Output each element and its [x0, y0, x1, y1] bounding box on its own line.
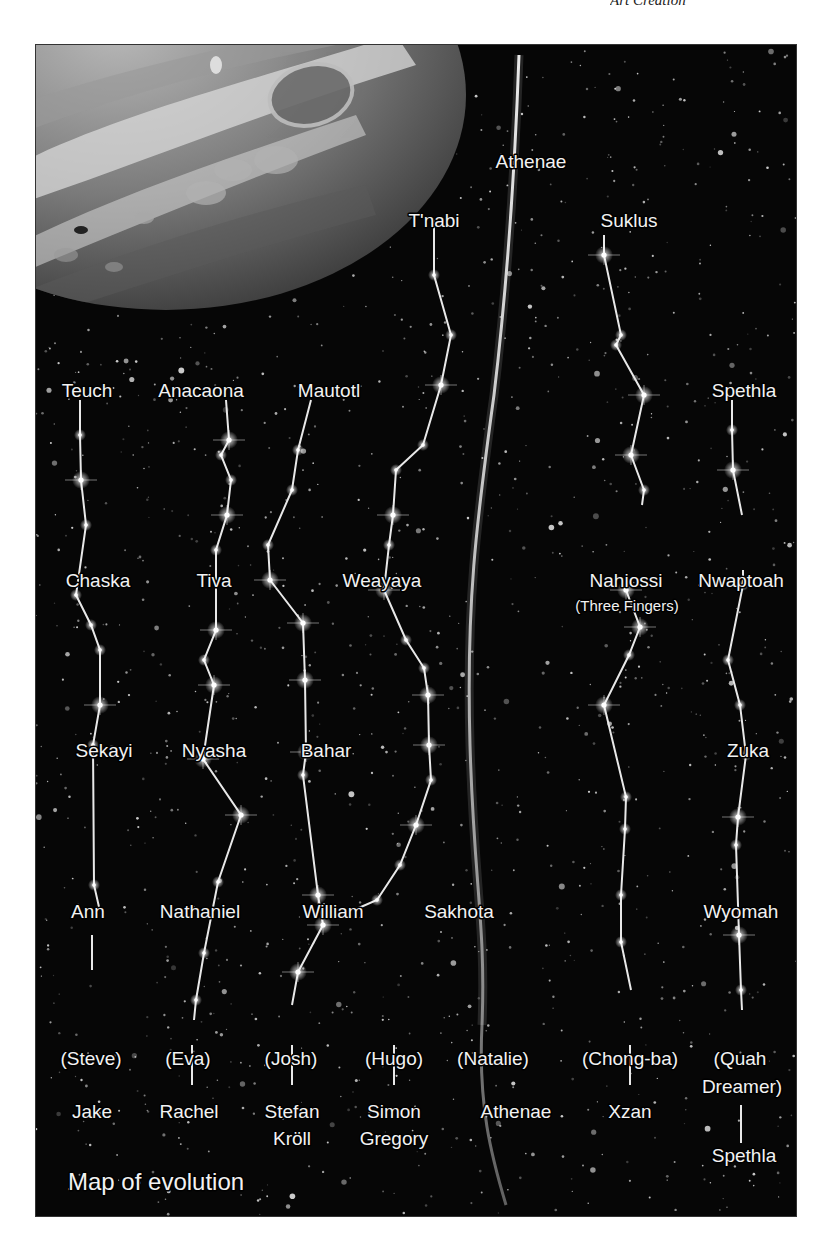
- label-kroll: Kröll: [273, 1128, 311, 1149]
- label-dreamer: Dreamer): [702, 1076, 782, 1097]
- label-mautotl: Mautotl: [298, 380, 360, 401]
- label-xzan: Xzan: [608, 1101, 651, 1122]
- label-nahiossi: Nahiossi: [590, 570, 663, 591]
- page-header-title: Art Creation: [610, 0, 686, 8]
- jupiter-planet-image: [36, 45, 466, 325]
- label-josh: (Josh): [265, 1048, 318, 1069]
- star-chains: [76, 220, 746, 1143]
- label-anacaona: Anacaona: [158, 380, 244, 401]
- label-athenae-bottom: Athenae: [481, 1101, 552, 1122]
- label-nwaptoah: Nwaptoah: [698, 570, 784, 591]
- label-chong-ba: (Chong-ba): [582, 1048, 678, 1069]
- label-athenae-top: Athenae: [496, 151, 567, 172]
- label-stefan: Stefan: [265, 1101, 320, 1122]
- label-wyomah: Wyomah: [704, 901, 779, 922]
- label-gregory: Gregory: [360, 1128, 429, 1149]
- label-nathaniel: Nathaniel: [160, 901, 240, 922]
- label-tnabi: T'nabi: [408, 210, 459, 231]
- page-running-header: Art Creation: [610, 0, 831, 10]
- star-map-canvas: Athenae (Natalie) Athenae Teuch Chaska S…: [36, 45, 796, 1216]
- label-spethla-top: Spethla: [712, 380, 777, 401]
- evolution-map-figure: Athenae (Natalie) Athenae Teuch Chaska S…: [36, 45, 796, 1216]
- label-steve: (Steve): [60, 1048, 121, 1069]
- label-william: William: [302, 901, 363, 922]
- label-zuka: Zuka: [727, 740, 770, 761]
- label-weayaya: Weayaya: [343, 570, 422, 591]
- label-chaska: Chaska: [66, 570, 131, 591]
- label-jake: Jake: [72, 1101, 112, 1122]
- label-teuch: Teuch: [62, 380, 113, 401]
- label-sakhota: Sakhota: [424, 901, 494, 922]
- label-tiva: Tiva: [196, 570, 232, 591]
- label-sekayi: Sekayi: [75, 740, 132, 761]
- label-simon: Simon: [367, 1101, 421, 1122]
- label-eva: (Eva): [165, 1048, 210, 1069]
- label-nyasha: Nyasha: [182, 740, 247, 761]
- label-three-fingers: (Three Fingers): [575, 597, 678, 614]
- label-natalie: (Natalie): [457, 1048, 529, 1069]
- label-suklus: Suklus: [600, 210, 657, 231]
- label-ann: Ann: [71, 901, 105, 922]
- label-bahar: Bahar: [301, 740, 352, 761]
- constellation-stars: [65, 245, 755, 1006]
- figure-caption: Map of evolution: [68, 1168, 244, 1195]
- label-quah: (Quah: [714, 1048, 767, 1069]
- label-spethla-bottom: Spethla: [712, 1145, 777, 1166]
- label-hugo: (Hugo): [365, 1048, 423, 1069]
- label-rachel: Rachel: [159, 1101, 218, 1122]
